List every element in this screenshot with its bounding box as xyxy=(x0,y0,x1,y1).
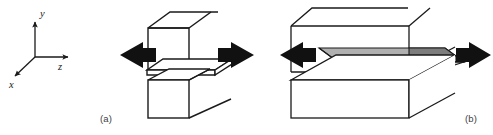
panel-a-drawing xyxy=(120,12,254,118)
panel-b-upper-top-right-edge xyxy=(409,8,430,26)
axis-label-z: z xyxy=(57,61,62,72)
panel-b-left-arrow xyxy=(280,42,316,68)
panel-b-right-arrow xyxy=(456,42,491,68)
panel-a-lower-front-face xyxy=(148,80,189,118)
axis-label-x: x xyxy=(8,79,14,90)
axis-x-line xyxy=(15,57,35,76)
figure-canvas: y z x xyxy=(0,0,493,135)
panel-a-lower-right-edge xyxy=(189,99,231,118)
panel-b-upper-top-back-right xyxy=(409,8,456,26)
panel-b-drawing xyxy=(280,8,491,118)
figure-svg: y z x xyxy=(0,0,493,135)
axis-label-y: y xyxy=(39,8,45,19)
panel-b-caption: (b) xyxy=(465,113,477,124)
panel-a-caption: (a) xyxy=(100,113,112,124)
panel-b-upper-top-back-left xyxy=(291,8,408,26)
panel-b-lower-front-face xyxy=(291,80,409,118)
